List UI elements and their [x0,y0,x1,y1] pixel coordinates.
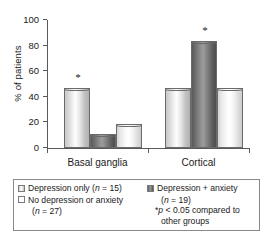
bar-cortical-no-depression-anxiety [217,88,243,148]
legend-sublabel-no-depression-anxiety: (n = 27) [18,206,149,217]
legend-swatch-light-icon [18,185,25,192]
legend-item-no-depression-anxiety: No depression or anxiety [18,195,149,206]
y-tick-label-80: 80 [28,40,39,51]
bar-basal-depression-only [64,88,90,148]
x-tick-end [249,149,250,153]
legend-text-3-tail: = 19) [169,195,191,205]
y-tick-label-20: 20 [28,116,39,127]
y-tick-80: 80 [0,40,47,51]
bar-cap [90,134,116,137]
significance-star-cortical: * [192,25,218,36]
y-tick-40: 40 [0,91,47,102]
y-axis-ticks: 100 80 60 40 20 0 [0,0,47,172]
significance-star-basal: * [65,72,91,83]
bar-cap [165,88,191,91]
bar-cortical-depression-anxiety [191,41,217,149]
legend-swatch-white-icon [18,196,25,203]
legend-text-1-tail: = 15) [100,183,122,193]
bar-cap [116,124,142,127]
legend-swatch-dark-icon [147,185,154,192]
chart-legend: Depression only (n = 15) No depression o… [13,179,260,231]
bar-basal-no-depression-anxiety [116,124,142,148]
legend-label-no-depression-anxiety: No depression or anxiety [28,195,149,206]
legend-column-right: Depression + anxiety (n = 19) *p < 0.05 … [147,183,259,226]
legend-label-depression-only: Depression only (n = 15) [28,183,149,194]
bar-cortical-depression-only [165,88,191,148]
bars-layer [47,20,250,148]
legend-sublabel-depression-anxiety: (n = 19) [147,195,259,206]
y-tick-20: 20 [0,116,47,127]
legend-significance-note-line2: other groups [147,216,259,227]
x-axis-label-basal-ganglia: Basal ganglia [47,157,148,168]
plot-area: % of patients 100 80 60 40 20 [0,0,273,172]
legend-item-depression-only: Depression only (n = 15) [18,183,149,194]
bar-cap [191,41,217,44]
legend-text-1: Depression only ( [28,183,95,193]
y-tick-60: 60 [0,65,47,76]
y-tick-label-60: 60 [28,65,39,76]
y-tick-label-40: 40 [28,91,39,102]
legend-significance-note: *p < 0.05 compared to [147,205,259,216]
y-tick-label-100: 100 [23,14,39,25]
legend-column-left: Depression only (n = 15) No depression o… [18,183,149,217]
y-tick-0: 0 [0,142,47,153]
legend-label-depression-anxiety: Depression + anxiety [157,183,259,194]
x-tick-start [47,149,48,153]
bar-chart-figure: % of patients 100 80 60 40 20 [0,0,273,239]
y-tick-label-0: 0 [34,142,39,153]
legend-item-depression-anxiety: Depression + anxiety [147,183,259,194]
legend-text-2-tail: = 27) [40,206,62,216]
x-tick-mid [148,149,149,153]
bar-basal-depression-anxiety [90,134,116,148]
x-axis-label-cortical: Cortical [148,157,249,168]
y-tick-100: 100 [0,14,47,25]
legend-note-text: < 0.05 compared to [163,205,240,215]
bar-cap [217,88,243,91]
bar-cap [64,88,90,91]
